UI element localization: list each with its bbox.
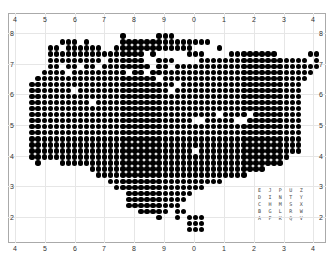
map-dot [199, 154, 204, 159]
map-dot [181, 148, 186, 153]
map-dot [290, 142, 295, 147]
map-dot [144, 166, 149, 171]
map-dot [241, 106, 246, 111]
map-dot [211, 142, 216, 147]
map-dot [211, 166, 216, 171]
map-dot [259, 160, 264, 165]
map-dot [175, 76, 180, 81]
map-dot [175, 39, 180, 44]
map-dot [253, 106, 258, 111]
map-dot [60, 148, 65, 153]
map-dot [72, 136, 77, 141]
map-dot [271, 160, 276, 165]
map-dot [247, 88, 252, 93]
map-dot [253, 112, 258, 117]
map-dot [302, 58, 307, 63]
map-dot [211, 154, 216, 159]
map-dot [48, 82, 53, 87]
map-dot [175, 185, 180, 190]
map-dot [290, 94, 295, 99]
map-dot [217, 45, 222, 50]
map-dot [60, 70, 65, 75]
map-dot [138, 39, 143, 44]
map-dot [199, 179, 204, 184]
map-dot [259, 166, 264, 171]
map-dot [169, 33, 174, 38]
map-dot [126, 185, 131, 190]
map-dot [265, 70, 270, 75]
map-dot [42, 100, 47, 105]
map-dot [138, 154, 143, 159]
map-dot [199, 58, 204, 63]
map-dot [181, 160, 186, 165]
map-dot [223, 136, 228, 141]
map-dot [60, 58, 65, 63]
map-dot [126, 118, 131, 123]
map-dot [54, 76, 59, 81]
map-dot [253, 136, 258, 141]
map-dot [259, 82, 264, 87]
map-dot [150, 185, 155, 190]
map-dot [60, 82, 65, 87]
map-dot [42, 142, 47, 147]
map-dot [138, 88, 143, 93]
map-dot [169, 172, 174, 177]
map-dot [138, 76, 143, 81]
map-dot [72, 58, 77, 63]
map-dot [277, 142, 282, 147]
map-dot [126, 148, 131, 153]
map-dot [66, 64, 71, 69]
map-dot [163, 88, 168, 93]
map-dot [217, 148, 222, 153]
map-dot [120, 160, 125, 165]
map-dot [84, 58, 89, 63]
x-tick-bottom: 8 [132, 245, 136, 252]
map-dot [284, 58, 289, 63]
x-tick-bottom: 4 [311, 245, 315, 252]
map-dot [132, 191, 137, 196]
map-dot [126, 94, 131, 99]
map-dot [181, 70, 186, 75]
map-dot [35, 136, 40, 141]
map-dot [150, 112, 155, 117]
map-dot [138, 118, 143, 123]
x-tick-bottom: 7 [102, 245, 106, 252]
map-dot [138, 197, 143, 202]
map-dot [78, 148, 83, 153]
map-dot [265, 51, 270, 56]
map-dot [247, 100, 252, 105]
map-dot [241, 76, 246, 81]
map-dot [181, 76, 186, 81]
map-dot [126, 136, 131, 141]
y-tick-right: 2 [319, 214, 323, 221]
x-tick-top: 4 [311, 16, 315, 23]
map-dot [35, 142, 40, 147]
map-dot [199, 160, 204, 165]
map-dot [42, 94, 47, 99]
map-dot [187, 51, 192, 56]
map-dot [138, 166, 143, 171]
map-dot [265, 142, 270, 147]
map-dot [217, 142, 222, 147]
map-dot [193, 185, 198, 190]
map-dot [132, 148, 137, 153]
map-dot [54, 142, 59, 147]
map-dot [126, 39, 131, 44]
map-dot [229, 142, 234, 147]
map-dot [163, 191, 168, 196]
map-dot [253, 76, 258, 81]
map-dot [199, 148, 204, 153]
map-dot [29, 82, 34, 87]
map-dot [193, 136, 198, 141]
map-dot [253, 100, 258, 105]
map-dot [290, 70, 295, 75]
map-dot [144, 100, 149, 105]
map-dot [271, 94, 276, 99]
y-tick-right: 6 [319, 91, 323, 98]
legend-row: B G L R W [258, 208, 305, 215]
map-dot [156, 185, 161, 190]
map-dot [144, 45, 149, 50]
map-dot [223, 142, 228, 147]
map-dot [163, 154, 168, 159]
map-dot [66, 142, 71, 147]
